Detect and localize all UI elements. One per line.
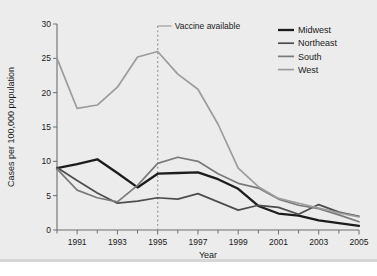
x-tick-label: 1991 [68,237,87,247]
y-tick-label: 5 [46,191,51,201]
y-tick-label: 25 [42,53,52,63]
x-tick-label: 1999 [229,237,248,247]
x-tick-label: 1997 [188,237,207,247]
y-tick-label: 20 [42,88,52,98]
x-axis-title-group: Year [199,250,217,260]
y-tick-label: 10 [42,156,52,166]
line-chart: 0510152025301991199319951997199920012003… [0,0,377,276]
legend-label-midwest: Midwest [298,25,332,35]
x-tick-label: 1993 [108,237,127,247]
chart-figure: 0510152025301991199319951997199920012003… [0,0,377,276]
y-axis-title: Cases per 100,000 population [6,67,16,187]
x-tick-label: 1995 [148,237,167,247]
legend-label-northeast: Northeast [298,38,338,48]
x-tick-label: 2003 [309,237,328,247]
legend-label-south: South [298,52,322,62]
y-tick-label: 0 [46,225,51,235]
series-line-midwest [57,159,359,226]
annotation-label: Vaccine available [175,21,241,31]
x-tick-label: 2001 [269,237,288,247]
x-tick-label: 2005 [350,237,369,247]
legend: MidwestNortheastSouthWest [278,25,338,75]
y-axis-title-group: Cases per 100,000 population [6,67,16,187]
series-line-west [57,51,359,216]
series-group [57,51,359,225]
x-axis-title: Year [199,250,217,260]
legend-label-west: West [298,65,319,75]
y-tick-label: 30 [42,19,52,29]
series-line-south [57,157,359,222]
y-tick-label: 15 [42,122,52,132]
